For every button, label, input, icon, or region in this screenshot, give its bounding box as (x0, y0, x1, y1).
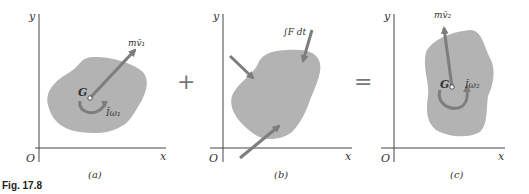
momentum-label: mv̄₂ (434, 10, 452, 20)
panel-b: y x O ∫F dt (b) (209, 10, 352, 180)
panel-c: y x O G mv̄₂ Īω₂ (c) (381, 10, 505, 180)
rigid-body-shape (231, 50, 320, 139)
figure-caption: Fig. 17.8 (2, 180, 42, 191)
y-axis-label: y (28, 10, 36, 23)
impulse-label: ∫F dt (283, 27, 307, 37)
x-axis-label: x (498, 150, 505, 163)
momentum-label: mv̄₁ (128, 38, 145, 48)
angular-momentum-label: Īω₂ (464, 79, 480, 90)
x-axis-label: x (160, 150, 167, 163)
panel-label-b: (b) (274, 169, 288, 180)
center-of-mass-point (450, 85, 454, 89)
origin-label: O (209, 152, 218, 165)
panel-label-c: (c) (450, 169, 464, 180)
impulse-momentum-diagram: y x O G mv̄₁ Īω₁ (a) + y x O ∫F dt (b) =… (0, 0, 529, 194)
panel-a: y x O G mv̄₁ Īω₁ (a) (26, 10, 167, 180)
angular-momentum-label: Īω₁ (105, 107, 121, 118)
y-axis-label: y (383, 10, 391, 23)
center-label: G (440, 78, 449, 91)
impulse-arrow-left (230, 56, 253, 78)
plus-operator: + (177, 69, 195, 94)
rigid-body-shape (425, 30, 494, 136)
center-of-mass-point (88, 96, 92, 100)
origin-label: O (381, 152, 390, 165)
equals-operator: = (354, 69, 372, 94)
x-axis-label: x (345, 150, 352, 163)
panel-label-a: (a) (88, 169, 102, 180)
rigid-body-shape (47, 57, 146, 133)
center-label: G (78, 86, 87, 99)
y-axis-label: y (212, 10, 220, 23)
origin-label: O (26, 152, 35, 165)
